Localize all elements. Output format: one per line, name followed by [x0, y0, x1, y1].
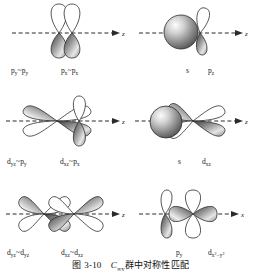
lobe-dB-lower-right — [74, 214, 103, 231]
label-sub: yz — [11, 161, 16, 167]
label-s: s — [178, 157, 181, 166]
label-base: s — [186, 66, 189, 75]
label-sub2: x — [76, 70, 79, 76]
orbital-diagram-py-px: z — [0, 0, 131, 60]
label-pz: pz — [208, 66, 214, 75]
sup-2b: 2 — [222, 251, 224, 256]
axis-arrow-z — [235, 118, 243, 124]
axis-arrow-z — [235, 30, 243, 36]
label-sub: y — [180, 252, 183, 258]
label-py-py: py~py — [11, 66, 28, 75]
panel-s-pz: z — [131, 0, 261, 60]
axis-arrow-z — [112, 118, 120, 124]
label-dxz-px: dxz~px — [60, 157, 80, 166]
lobe-px-lower — [64, 33, 80, 58]
axis-arrow-z — [112, 30, 120, 36]
label-sub2: x — [77, 161, 80, 167]
lobe-dB-upper-right — [74, 197, 103, 214]
orbital-s-sphere — [150, 106, 182, 138]
label-sub: xz — [206, 161, 211, 167]
label-sub2: yz — [24, 252, 29, 258]
label-base2: p — [22, 66, 26, 75]
label-sub: x — [65, 70, 68, 76]
label-dxz-dxz: dxz~dxz — [61, 248, 83, 257]
label-sub: xz — [65, 252, 70, 258]
axis-label-z: z — [121, 30, 125, 38]
lobe-px-upper — [64, 4, 80, 33]
orbital-diagram-s-pz: z — [131, 0, 261, 60]
axis-label-x: x — [240, 211, 245, 219]
caption-group-symbol: C∞v — [111, 260, 125, 270]
label-sub2: xz — [78, 252, 83, 258]
label-sub2: y — [24, 161, 27, 167]
axis-arrow-x — [231, 211, 239, 217]
label-sub: z — [212, 70, 214, 76]
axis-label-z: z — [121, 211, 125, 219]
lobe-d-lower-left — [23, 121, 57, 136]
axis-label-z: z — [244, 30, 248, 38]
label-sub: xz — [64, 161, 69, 167]
orbital-s-sphere — [164, 15, 198, 49]
lobe-d-upper-left — [23, 106, 57, 121]
label-dyz-py: dyz~py — [7, 157, 27, 166]
axis-label-z: z — [244, 118, 248, 126]
label-dx2y2: dx2−y2 — [208, 248, 225, 257]
lobe-d-upper-right — [193, 106, 225, 121]
label-px-px: px~px — [61, 66, 78, 75]
lobe-dA-lower-left — [19, 214, 44, 231]
orbital-diagram-dyz-py: z — [0, 90, 131, 152]
caption-number: 3-10 — [84, 260, 101, 270]
panel-s-dxz: z — [131, 90, 261, 152]
label-sub-group: x2−y2 — [212, 252, 225, 258]
lobe-dA-upper-left — [19, 197, 44, 214]
caption-prefix: 图 — [72, 260, 81, 270]
orbital-diagram-dyz-dyz: z — [0, 182, 131, 246]
label-base2: p — [72, 66, 76, 75]
lobe-d-lower-right — [193, 121, 225, 136]
caption-text: 群中对称性匹配 — [125, 260, 189, 270]
label-dyz-dyz: dyz~dyz — [7, 248, 29, 257]
figure-caption: 图 3-10 C∞v群中对称性匹配 — [0, 258, 261, 272]
label-py: py — [176, 248, 183, 257]
sup-2a: 2 — [215, 251, 217, 256]
panel-py-px: z — [0, 0, 131, 60]
label-base: s — [178, 157, 181, 166]
axis-label-z: z — [121, 118, 125, 126]
figure-container: z py~py px~px z s pz — [0, 0, 261, 277]
orbital-diagram-py-dx2y2: x — [131, 182, 261, 246]
label-sub2: y — [26, 70, 29, 76]
axis-arrow-z — [112, 211, 120, 217]
lobe-pz-upper — [197, 8, 210, 33]
panel-py-dx2y2: x — [131, 182, 261, 246]
panel-dyz-dyz: z — [0, 182, 131, 246]
panel-dyz-py: z — [0, 90, 131, 152]
lobe-pz-lower — [196, 33, 207, 55]
orbital-diagram-s-dxz: z — [131, 90, 261, 152]
label-dxz: dxz — [202, 157, 211, 166]
label-sub: y — [15, 70, 18, 76]
caption-group-sub: ∞v — [117, 266, 125, 272]
label-sub: yz — [11, 252, 16, 258]
label-s: s — [186, 66, 189, 75]
